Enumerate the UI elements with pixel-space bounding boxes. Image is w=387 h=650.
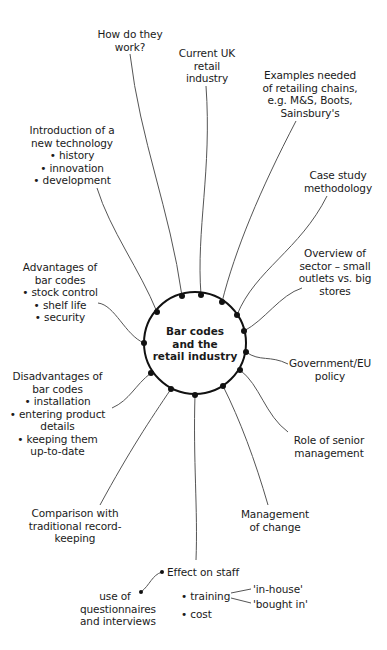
branch-text: work? [95,41,165,54]
branch-text: details [5,420,110,433]
connector-disadvantages [112,373,151,408]
branch-text: Management [240,508,310,521]
branch-text: of retailing chains, [252,82,368,95]
branch-text: up-to-date [5,445,110,458]
connector-effect-staff [195,395,197,560]
branch-overview-of-sector: Overview of sector – small outlets vs. b… [294,247,376,297]
central-topic-line: and the [145,338,245,351]
branch-government-eu-policy: Government/EU policy [287,357,373,382]
branch-text: Role of senior [286,434,372,447]
sub-branch-text: 'bought in' [253,598,308,611]
branch-text: • innovation [22,162,122,175]
branch-text: keeping [20,532,130,545]
branch-comparison-record-keeping: Comparison with traditional record- keep… [20,507,130,545]
sub-branch-text: use of [80,590,150,603]
branch-text: Case study [298,169,378,182]
sub-branch-training: • training [181,590,230,603]
branch-examples-retail-chains: Examples needed of retailing chains, e.g… [252,69,368,119]
branch-text: Effect on staff [167,566,239,579]
connector-change-mgmt [223,386,268,505]
sub-branch-text: 'in-house' [253,583,303,596]
branch-text: Sainsbury's [252,107,368,120]
connector-how-work [130,54,182,296]
branch-text: Introduction of a [22,124,122,137]
branch-text: outlets vs. big [294,272,376,285]
branch-text: Comparison with [20,507,130,520]
branch-text: • installation [5,395,110,408]
branch-current-uk-retail: Current UK retail industry [172,47,242,85]
branch-text: • shelf life [20,299,100,312]
branch-effect-on-staff: Effect on staff [167,566,239,579]
branch-text: Disadvantages of [5,370,110,383]
connector-advantages [98,303,144,343]
central-topic-line: Bar codes [145,325,245,338]
branch-text: methodology [298,182,378,195]
central-topic: Bar codes and the retail industry [145,325,245,363]
training-option-in-house: 'in-house' [253,583,303,596]
branch-text: Current UK [172,47,242,60]
branch-text: management [286,447,372,460]
branch-text: sector – small [294,260,376,273]
central-topic-line: retail industry [145,350,245,363]
connector-bought-in [231,598,251,603]
sub-branch-text: and interviews [80,615,150,628]
branch-text: Overview of [294,247,376,260]
branch-disadvantages-of-bar-codes: Disadvantages of bar codes • installatio… [5,370,110,458]
branch-text: retail [172,60,242,73]
branch-text: Government/EU [287,357,373,370]
connector-in-house [231,589,251,593]
branch-text: bar codes [5,383,110,396]
branch-text: bar codes [20,274,100,287]
sub-branch-text: questionnaires [80,603,150,616]
mind-map-diagram: Bar codes and the retail industry How do… [0,0,387,650]
branch-management-of-change: Management of change [240,508,310,533]
branch-case-study-methodology: Case study methodology [298,169,378,194]
branch-advantages-of-bar-codes: Advantages of bar codes • stock control … [20,261,100,324]
branch-text: of change [240,521,310,534]
branch-role-of-senior-management: Role of senior management [286,434,372,459]
branch-text: How do they [95,28,165,41]
sub-branch-text: • training [181,590,230,603]
branch-text: • keeping them [5,433,110,446]
branch-text: policy [287,370,373,383]
branch-introduction-new-technology: Introduction of a new technology • histo… [22,124,122,187]
branch-text: Examples needed [252,69,368,82]
branch-text: • stock control [20,286,100,299]
branch-text: traditional record- [20,520,130,533]
connector-senior-mgmt [240,370,288,432]
branch-how-do-they-work: How do they work? [95,28,165,53]
training-option-bought-in: 'bought in' [253,598,308,611]
branch-text: • security [20,311,100,324]
sub-branch-cost: • cost [181,608,212,621]
connector-government [246,352,288,364]
connector-current-uk [200,86,207,295]
connector-examples [222,121,296,302]
sub-branch-text: • cost [181,608,212,621]
branch-text: stores [294,285,376,298]
branch-text: new technology [22,137,122,150]
connector-questionnaires [141,572,162,592]
connector-introduction [97,188,157,312]
sub-branch-questionnaires: use of questionnaires and interviews [80,590,150,628]
branch-text: • development [22,174,122,187]
connector-comparison [100,389,171,505]
branch-text: industry [172,72,242,85]
branch-text: Advantages of [20,261,100,274]
branch-text: • history [22,149,122,162]
branch-text: e.g. M&S, Boots, [252,94,368,107]
branch-text: • entering product [5,408,110,421]
